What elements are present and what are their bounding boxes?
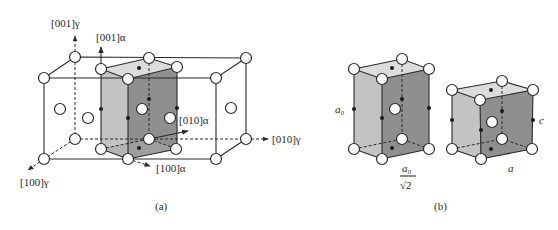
panel-a-caption: (a) (155, 200, 168, 213)
axis-label-alpha-010: [010]α (179, 114, 209, 126)
axis-label-gamma-001: [001]γ (51, 17, 80, 29)
label-sqrt2-denominator: √2 (400, 179, 412, 191)
carbon-atom (137, 146, 141, 150)
bain-correspondence-figure: [001]γ [001]α [010]α [010]γ [100]α [100]… (0, 0, 558, 230)
panel-b: a₀ a₀ √2 c a (b) (335, 54, 544, 214)
axis-label-alpha-100: [100]α (156, 162, 186, 174)
axis-label-gamma-100: [100]γ (20, 176, 49, 188)
label-a: a (508, 162, 514, 174)
label-c: c (539, 114, 544, 126)
carbon-atom (126, 116, 130, 120)
carbon-atom (137, 66, 141, 70)
axis-label-alpha-001: [001]α (96, 31, 126, 43)
axis-label-gamma-010: [010]γ (272, 133, 301, 145)
carbon-atom (175, 106, 179, 110)
label-a0-numerator: a₀ (402, 162, 412, 174)
panel-b-caption: (b) (434, 200, 447, 213)
carbon-atom (147, 97, 151, 101)
carbon-atom (99, 107, 103, 111)
label-a0: a₀ (335, 103, 345, 115)
panel-a: [001]γ [001]α [010]α [010]γ [100]α [100]… (20, 17, 301, 213)
